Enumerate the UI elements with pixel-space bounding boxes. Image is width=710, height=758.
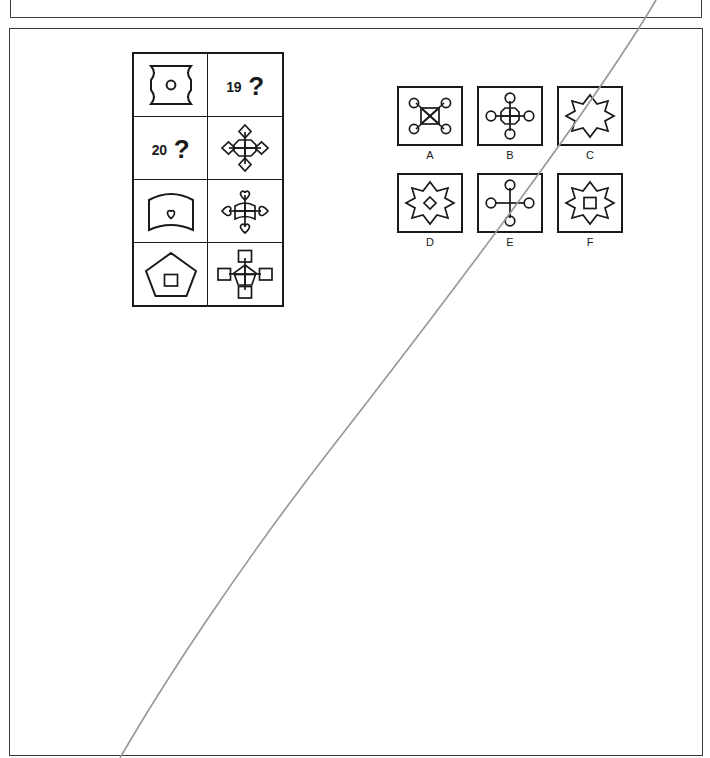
table-row [133,243,283,307]
option-a-box[interactable] [397,86,463,146]
options-row-bottom: D E [397,173,625,249]
option-f-box[interactable] [557,173,623,233]
matrix-cell-r4c2[interactable] [208,243,283,307]
matrix-cell-r2c2[interactable] [208,117,283,180]
figure-pentagon-with-square-icon [134,243,207,305]
question-mark-glyph: ? [248,73,264,99]
table-row: 19 ? [133,53,283,117]
figure-eight-point-star-with-diamond-icon [404,179,456,227]
matrix-cell-r3c2[interactable] [208,180,283,243]
question-cell-19: 19 ? [208,72,282,98]
question-cell-20: 20 ? [134,135,207,161]
option-c[interactable]: C [557,86,623,162]
figure-plain-cross-with-circles-icon [483,178,537,228]
matrix-cell-r1c1[interactable] [133,53,208,117]
analogy-matrix: 19 ? 20 ? [132,52,284,307]
answer-options: A B [397,86,625,249]
figure-pentagon-cross-with-squares-icon [208,243,282,305]
figure-concave-corner-square-with-circle-icon [134,54,207,116]
matrix-cell-r1c2[interactable]: 19 ? [208,53,283,117]
table-row: 20 ? [133,117,283,180]
page-frame-top [10,0,702,18]
option-d[interactable]: D [397,173,463,249]
question-mark-glyph: ? [174,136,190,162]
option-e[interactable]: E [477,173,543,249]
option-c-box[interactable] [557,86,623,146]
option-f[interactable]: F [557,173,623,249]
option-b[interactable]: B [477,86,543,162]
figure-barrel-shape-with-heart-icon [134,180,207,242]
options-row-top: A B [397,86,625,162]
option-e-label: E [477,235,543,249]
question-number: 20 [152,143,167,157]
table-row [133,180,283,243]
option-b-box[interactable] [477,86,543,146]
figure-octagon-cross-with-circles-icon [483,91,537,141]
option-c-label: C [557,148,623,162]
figure-barrel-cross-with-hearts-icon [208,180,282,242]
option-f-label: F [557,235,623,249]
option-d-box[interactable] [397,173,463,233]
question-number: 19 [226,80,241,94]
figure-eight-point-star-icon [564,92,616,140]
matrix-cell-r2c1[interactable]: 20 ? [133,117,208,180]
option-b-label: B [477,148,543,162]
option-a[interactable]: A [397,86,463,162]
option-a-label: A [397,148,463,162]
figure-eight-point-star-with-square-icon [564,179,616,227]
worksheet-page: 19 ? 20 ? [0,0,710,758]
figure-square-with-x-and-four-circles-icon [404,92,456,140]
matrix-cell-r3c1[interactable] [133,180,208,243]
option-d-label: D [397,235,463,249]
figure-octagon-cross-with-diamonds-icon [208,117,282,179]
matrix-cell-r4c1[interactable] [133,243,208,307]
option-e-box[interactable] [477,173,543,233]
